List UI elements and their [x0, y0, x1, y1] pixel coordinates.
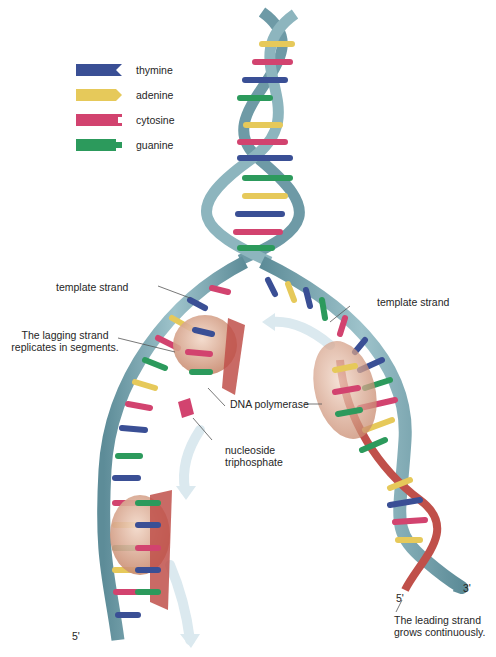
thymine-icon [76, 64, 122, 76]
lagging-line2: replicates in segments. [10, 341, 120, 353]
legend-label: thymine [136, 64, 173, 76]
legend-item-thymine: thymine [76, 64, 173, 76]
label-template-strand-right: template strand [377, 296, 449, 308]
leading-line2: grows continuously. [394, 626, 485, 638]
label-dna-polymerase: DNA polymerase [230, 398, 309, 410]
nucleoside-line2: triphosphate [225, 456, 283, 468]
leading-line1: The leading strand [394, 614, 485, 626]
label-5-prime-right: 5' [396, 592, 404, 604]
label-lagging-strand: The lagging strand replicates in segment… [10, 329, 120, 353]
label-template-strand-left: template strand [56, 281, 128, 293]
legend-item-guanine: guanine [76, 139, 173, 151]
legend-label: cytosine [136, 114, 175, 126]
cytosine-icon [76, 114, 122, 126]
legend-item-adenine: adenine [76, 89, 173, 101]
guanine-icon [76, 139, 122, 151]
label-5-prime-left: 5' [72, 630, 80, 642]
label-leading-strand: The leading strand grows continuously. [394, 614, 485, 638]
legend-label: guanine [136, 139, 173, 151]
parent-double-helix [206, 12, 299, 262]
label-nucleoside-triphosphate: nucleoside triphosphate [225, 444, 283, 468]
nucleoside-triphosphate-shape [178, 398, 194, 418]
lagging-line1: The lagging strand [10, 329, 120, 341]
legend-item-cytosine: cytosine [76, 114, 175, 126]
label-3-prime-right: 3' [463, 582, 471, 594]
adenine-icon [76, 89, 122, 101]
legend-label: adenine [136, 89, 173, 101]
nucleoside-line1: nucleoside [225, 444, 283, 456]
